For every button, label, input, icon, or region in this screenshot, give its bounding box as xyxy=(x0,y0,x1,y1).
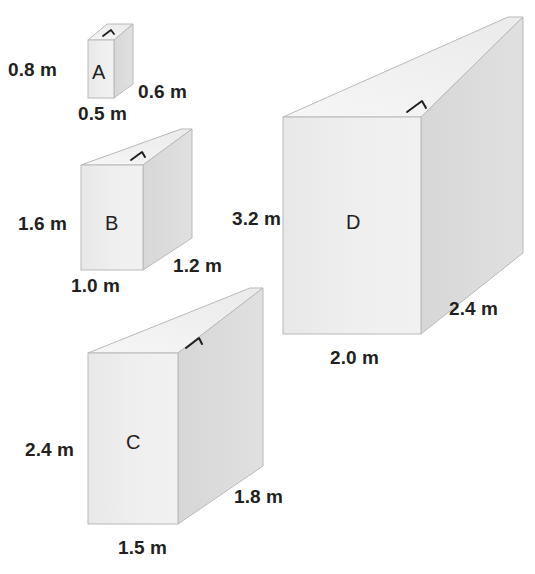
prism-b-letter: B xyxy=(105,213,118,233)
prism-a-letter: A xyxy=(92,62,105,82)
prism-d-height-label: 3.2 m xyxy=(232,209,281,228)
prism-c-depth-label: 1.8 m xyxy=(234,487,283,506)
prism-b xyxy=(81,129,192,270)
prism-d-width-label: 2.0 m xyxy=(330,348,379,367)
prism-b-depth-label: 1.2 m xyxy=(173,256,222,275)
prism-b-width-label: 1.0 m xyxy=(71,276,120,295)
prism-a-depth-label: 0.6 m xyxy=(138,82,187,101)
prism-d xyxy=(283,17,523,334)
prism-c-height-label: 2.4 m xyxy=(25,440,74,459)
prism-b-height-label: 1.6 m xyxy=(18,214,67,233)
prism-c-width-label: 1.5 m xyxy=(118,538,167,557)
prism-c-letter: C xyxy=(126,432,140,452)
prism-d-depth-label: 2.4 m xyxy=(449,299,498,318)
prism-a-width-label: 0.5 m xyxy=(78,104,127,123)
prism-d-letter: D xyxy=(346,212,360,232)
figure-canvas: 0.8 m A 0.6 m 0.5 m 1.6 m B 1.2 m 1.0 m … xyxy=(0,0,535,574)
prism-a-height-label: 0.8 m xyxy=(8,60,57,79)
